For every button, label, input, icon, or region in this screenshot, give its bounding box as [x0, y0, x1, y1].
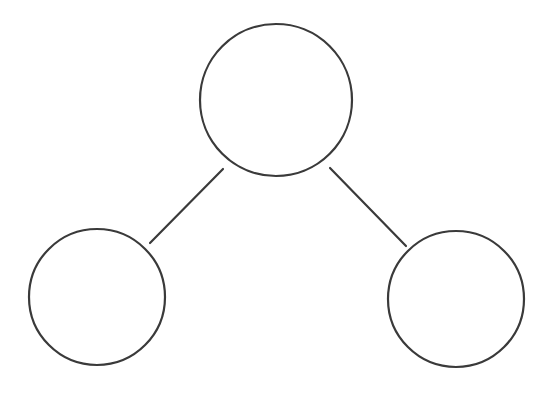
node-child-left-circle[interactable] [29, 229, 165, 365]
node-root-circle[interactable] [200, 24, 352, 176]
node-diagram [0, 0, 552, 393]
node-child-right-circle[interactable] [388, 231, 524, 367]
diagram-canvas [0, 0, 552, 393]
